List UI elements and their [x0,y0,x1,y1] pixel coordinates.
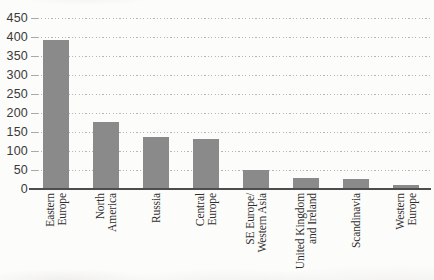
tick-mark-y-200 [31,113,38,114]
plot-area: 050100150200250300350400450Eastern Europ… [0,0,434,280]
x-axis-category-label: Scandinavia [350,193,362,248]
gridline-y-50 [31,170,431,171]
y-axis-tick-label: 300 [0,67,28,83]
y-axis-tick-label: 50 [0,162,28,178]
gridline-y-100 [31,151,431,152]
tick-mark-y-350 [31,56,38,57]
tick-mark-y-300 [31,75,38,76]
gridline-y-350 [31,56,431,57]
bar-central-europe [193,139,219,188]
tick-mark-y-150 [31,132,38,133]
bar-russia [143,137,169,188]
y-axis-tick-label: 150 [0,124,28,140]
tick-mark-y-450 [31,18,38,19]
y-axis-tick-label: 200 [0,105,28,121]
bar-chart-figure: 050100150200250300350400450Eastern Europ… [0,0,434,280]
gridline-y-300 [31,75,431,76]
gridline-y-200 [31,113,431,114]
bar-eastern-europe [43,40,69,188]
gridline-y-250 [31,94,431,95]
x-axis-category-label: Central Europe [194,193,218,226]
x-axis-category-label: United Kingdom and Ireland [294,193,318,269]
bar-se-europe-western-asia [243,170,269,188]
tick-mark-y-100 [31,151,38,152]
x-axis-category-label: SE Europe/ Western Asia [244,193,268,253]
bar-western-europe [393,185,419,188]
tick-mark-y-250 [31,94,38,95]
y-axis-tick-label: 400 [0,29,28,45]
x-axis-line [29,188,431,190]
y-axis-tick-label: 350 [0,48,28,64]
bar-north-america [93,122,119,189]
gridline-y-400 [31,37,431,38]
x-axis-category-label: Western Europe [394,193,418,230]
y-axis-tick-label: 250 [0,86,28,102]
x-axis-category-label: Eastern Europe [44,193,68,227]
gridline-y-150 [31,132,431,133]
bar-scandinavia [343,179,369,188]
y-axis-tick-label: 100 [0,143,28,159]
y-axis-tick-label: 0 [0,181,28,197]
tick-mark-y-400 [31,37,38,38]
tick-mark-y-50 [31,170,38,171]
gridline-y-450 [31,18,431,19]
bar-united-kingdom-and-ireland [293,178,319,188]
y-axis-tick-label: 450 [0,10,28,26]
x-axis-category-label: North America [94,193,118,232]
x-axis-category-label: Russia [150,193,162,223]
